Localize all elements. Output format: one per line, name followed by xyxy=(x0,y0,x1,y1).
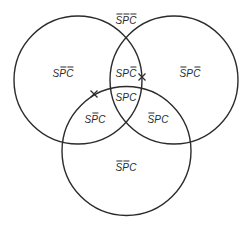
region-label-spc: SPC xyxy=(115,92,136,103)
region-label-outside: SPC xyxy=(115,15,136,26)
circle-c xyxy=(62,87,191,216)
region-label-sc-not-p: SPC xyxy=(84,114,105,125)
region-label-s-only: SPC xyxy=(52,68,73,79)
venn-diagram xyxy=(0,0,247,226)
region-label-pc-not-s: SPC xyxy=(147,114,168,125)
circle-p xyxy=(110,16,238,144)
region-label-p-only: SPC xyxy=(179,68,200,79)
circle-s xyxy=(14,16,142,144)
region-label-c-only: SPC xyxy=(115,162,136,173)
region-label-sp-not-c: SPC xyxy=(115,68,136,79)
